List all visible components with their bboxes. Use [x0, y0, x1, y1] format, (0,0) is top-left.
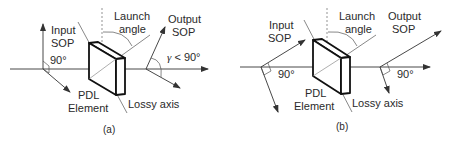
panel-caption-b: (b)	[336, 121, 348, 132]
pdl-label-line2-a: Element	[68, 102, 108, 114]
output-angle-label-a: γ < 90°	[167, 51, 201, 63]
right-angle-marker-a	[43, 61, 49, 73]
input-sop-label-line1-a: Input	[51, 24, 75, 36]
output-sop-label-line2-b: SOP	[392, 23, 415, 35]
input-sop-label-line2-a: SOP	[51, 37, 74, 49]
panel-caption-a: (a)	[103, 124, 115, 135]
output-sop-up-arrow-b	[380, 31, 441, 67]
pdl-element-box-a	[89, 42, 125, 95]
right-angle-marker-input-b	[261, 63, 271, 75]
input-sop-label-line1-b: Input	[269, 19, 293, 31]
lossy-axis-label-a: Lossy axis	[128, 98, 180, 110]
input-angle-label-a: 90°	[50, 54, 67, 66]
output-sop-label-line2-a: SOP	[172, 26, 195, 38]
launch-angle-label-line1-b: Launch	[339, 10, 375, 22]
lossy-axis-label-b: Lossy axis	[352, 97, 404, 109]
launch-angle-label-line2-a: angle	[119, 23, 146, 35]
input-sop-label-line2-b: SOP	[268, 32, 291, 44]
panel-a: Input SOP 90° Launch angle Output SOP γ …	[10, 8, 208, 135]
output-sop-label-line1-a: Output	[168, 13, 201, 25]
pdl-label-line1-b: PDL	[305, 87, 326, 99]
launch-angle-label-line2-b: angle	[345, 23, 372, 35]
right-angle-marker-output-b	[380, 63, 390, 75]
panel-b: Input SOP 90° Launch angle Output SOP 90…	[240, 8, 441, 132]
pdl-diagram-figure: Input SOP 90° Launch angle Output SOP γ …	[0, 0, 453, 142]
output-sop-up-arrow-a	[146, 27, 165, 69]
input-sop-up-arrow-b	[261, 40, 305, 67]
output-sop-label-line1-b: Output	[388, 10, 421, 22]
input-angle-label-b: 90°	[278, 68, 295, 80]
input-sop-diagonal-arrow-a	[43, 69, 70, 92]
gamma-angle-arc-a	[151, 58, 161, 77]
pdl-label-line2-b: Element	[294, 100, 334, 112]
pdl-label-line1-a: PDL	[78, 89, 99, 101]
output-angle-label-b: 90°	[397, 68, 414, 80]
pdl-element-box-b	[313, 39, 350, 94]
launch-angle-label-line1-a: Launch	[114, 10, 150, 22]
output-sop-down-arrow-a	[146, 69, 180, 88]
